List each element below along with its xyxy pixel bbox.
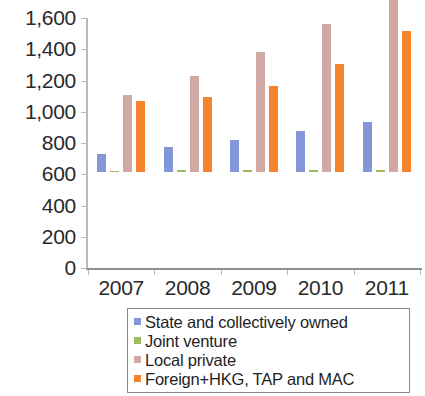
x-tick-mark — [420, 270, 421, 275]
x-tick-mark — [88, 270, 89, 275]
bar-2008-3 — [203, 97, 212, 172]
legend-label: State and collectively owned — [145, 313, 348, 331]
bar-2007-0 — [97, 154, 106, 172]
x-tick-mark — [287, 270, 288, 275]
plot-area: 02004006008001,0001,2001,4001,600 200720… — [0, 0, 425, 300]
bar-2008-2 — [190, 76, 199, 172]
legend-swatch-icon — [134, 337, 141, 344]
y-tick-mark — [81, 174, 87, 175]
legend-item[interactable]: Local private — [134, 350, 403, 369]
x-tick-label-2008: 2008 — [165, 276, 211, 300]
x-tick-mark — [354, 270, 355, 275]
legend-swatch-icon — [134, 375, 141, 382]
x-tick-label-2010: 2010 — [298, 276, 344, 300]
chart-legend: State and collectively ownedJoint ventur… — [127, 308, 410, 393]
bar-2010-0 — [296, 131, 305, 172]
x-tick-label-2007: 2007 — [98, 276, 144, 300]
bar-2009-1 — [243, 170, 252, 172]
bar-2010-3 — [335, 64, 344, 172]
bar-2010-1 — [309, 170, 318, 172]
bar-2009-2 — [256, 52, 265, 172]
y-tick-mark — [81, 18, 87, 19]
bar-chart: 02004006008001,0001,2001,4001,600 200720… — [0, 0, 425, 396]
bar-2007-1 — [110, 171, 119, 172]
x-axis: 20072008200920102011 — [0, 272, 425, 302]
y-tick-mark — [81, 268, 87, 269]
bar-2010-2 — [322, 24, 331, 172]
legend-label: Joint venture — [145, 332, 237, 350]
y-tick-mark — [81, 81, 87, 82]
y-tick-mark — [81, 237, 87, 238]
bar-2007-3 — [136, 101, 145, 172]
legend-swatch-icon — [134, 356, 141, 363]
bar-2008-1 — [177, 170, 186, 172]
x-tick-label-2009: 2009 — [231, 276, 277, 300]
bar-2011-1 — [376, 170, 385, 173]
y-tick-mark — [81, 49, 87, 50]
y-tick-mark — [81, 112, 87, 113]
x-tick-mark — [154, 270, 155, 275]
x-tick-mark — [221, 270, 222, 275]
bar-2008-0 — [164, 147, 173, 172]
legend-item[interactable]: Joint venture — [134, 331, 403, 350]
y-tick-mark — [81, 206, 87, 207]
legend-item[interactable]: State and collectively owned — [134, 312, 403, 331]
bar-2011-2 — [389, 0, 398, 172]
bar-2009-0 — [230, 140, 239, 172]
bar-2011-3 — [402, 31, 411, 172]
legend-swatch-icon — [134, 318, 141, 325]
bar-2007-2 — [123, 95, 132, 172]
y-tick-mark — [81, 143, 87, 144]
bars-layer — [0, 0, 425, 300]
legend-item[interactable]: Foreign+HKG, TAP and MAC — [134, 369, 403, 388]
legend-label: Foreign+HKG, TAP and MAC — [145, 370, 354, 388]
bar-2011-0 — [363, 122, 372, 172]
legend-label: Local private — [145, 351, 236, 369]
bar-2009-3 — [269, 86, 278, 172]
x-tick-label-2011: 2011 — [365, 276, 409, 300]
